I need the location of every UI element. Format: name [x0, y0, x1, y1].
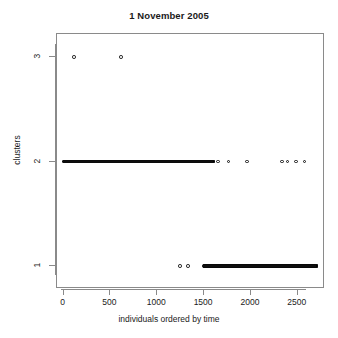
data-point: [72, 55, 76, 59]
x-tick: [156, 289, 157, 295]
x-axis-title: individuals ordered by time: [0, 314, 338, 324]
x-tick-label: 1500: [183, 297, 223, 307]
x-tick-label: 2000: [230, 297, 270, 307]
x-tick: [63, 289, 64, 295]
y-axis-title: clusters: [12, 115, 22, 185]
x-tick-label: 500: [89, 297, 129, 307]
y-tick: [49, 56, 55, 57]
scatter-plot-figure: 1 November 2005 clusters individuals ord…: [0, 0, 338, 338]
y-tick: [49, 265, 55, 266]
x-tick-label: 2500: [277, 297, 317, 307]
x-tick-label: 1000: [136, 297, 176, 307]
chart-title: 1 November 2005: [0, 10, 338, 21]
data-point: [280, 160, 284, 164]
data-point: [216, 160, 220, 164]
data-point: [245, 160, 249, 164]
y-tick: [49, 161, 55, 162]
y-tick-label: 2: [30, 154, 44, 168]
y-tick-label: 1: [30, 258, 44, 272]
x-tick: [297, 289, 298, 295]
data-point: [294, 160, 298, 164]
y-tick-label: 3: [30, 49, 44, 63]
x-tick-label: 0: [43, 297, 83, 307]
x-tick: [109, 289, 110, 295]
x-axis-line: [61, 289, 306, 290]
data-point: [178, 264, 182, 268]
data-point: [315, 264, 319, 268]
data-point: [119, 55, 123, 59]
x-tick: [250, 289, 251, 295]
y-axis-line: [55, 44, 56, 275]
data-point: [286, 160, 290, 164]
x-tick: [203, 289, 204, 295]
data-point: [303, 160, 307, 164]
data-point: [227, 160, 231, 164]
data-point: [212, 160, 216, 164]
plot-area: [56, 33, 324, 288]
data-point: [186, 264, 190, 268]
